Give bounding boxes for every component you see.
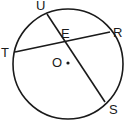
circle-chords-diagram: U R T S E O	[0, 0, 130, 122]
label-e: E	[61, 26, 70, 41]
label-t: T	[1, 45, 9, 60]
label-u: U	[36, 0, 45, 13]
center-point-o	[66, 61, 69, 64]
label-s: S	[109, 102, 118, 117]
label-r: R	[113, 25, 122, 40]
label-o: O	[52, 55, 62, 70]
